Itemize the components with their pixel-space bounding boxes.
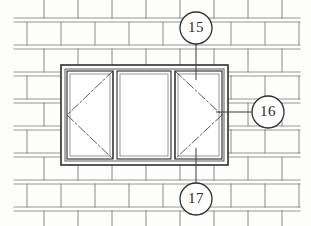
left-sash-glass: [70, 74, 110, 156]
callout-bubble-15[interactable]: 15: [180, 12, 212, 44]
callout-bubble-17[interactable]: 17: [180, 183, 212, 215]
window-elevation-drawing: 15 16 17: [0, 0, 311, 226]
callout-16-number: 16: [260, 103, 276, 119]
callout-bubble-16[interactable]: 16: [252, 96, 284, 128]
callout-17-number: 17: [188, 190, 204, 206]
callout-15-number: 15: [188, 19, 204, 35]
right-sash-glass: [178, 74, 219, 156]
window-pane-center-fixed: [117, 71, 171, 159]
window-pane-left-sash: [67, 71, 113, 159]
window-pane-right-sash: [175, 71, 222, 159]
window-assembly: [61, 65, 228, 165]
drawing-sheet: 15 16 17: [0, 0, 311, 226]
center-fixed-glass: [120, 74, 168, 156]
